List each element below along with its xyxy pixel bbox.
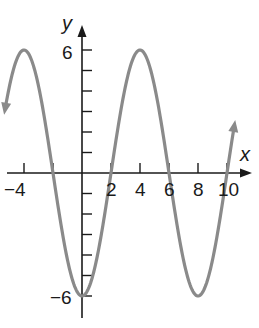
x-tick-label-2: 2 (106, 179, 117, 201)
x-axis-label: x (240, 143, 250, 166)
y-tick-label-neg6: −6 (50, 287, 72, 309)
curve-right-arrow-icon (228, 120, 238, 133)
y-tick-label-6: 6 (62, 42, 73, 64)
x-tick-label-8: 8 (193, 179, 204, 201)
sinusoid-chart (0, 0, 259, 328)
x-tick-label-10: 10 (218, 179, 239, 201)
x-tick-label-4: 4 (135, 179, 146, 201)
x-axis-arrow-icon (240, 169, 252, 178)
x-tick-label-neg4: −4 (4, 179, 26, 201)
y-axis-label: y (62, 12, 72, 35)
curve-left-arrow-icon (1, 102, 11, 115)
x-tick-label-6: 6 (164, 179, 175, 201)
y-axis-arrow-icon (78, 25, 87, 37)
x-ticks (24, 163, 227, 173)
